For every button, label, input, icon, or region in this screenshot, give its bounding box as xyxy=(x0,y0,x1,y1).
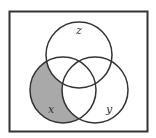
venn-diagram: z x y xyxy=(0,0,156,138)
shaded-region-x-only xyxy=(0,0,156,138)
label-y: y xyxy=(105,103,113,116)
label-z: z xyxy=(75,24,82,37)
label-x: x xyxy=(48,103,55,116)
